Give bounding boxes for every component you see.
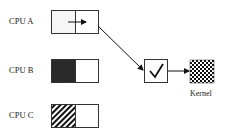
cpu-b-box xyxy=(52,60,99,83)
kernel-box xyxy=(190,60,214,83)
cpu-a-box xyxy=(52,11,99,34)
diagram-canvas xyxy=(0,0,226,138)
connector-cpu-a-to-check xyxy=(98,26,143,70)
check-node xyxy=(145,60,168,83)
cpu-c-box xyxy=(52,105,99,128)
